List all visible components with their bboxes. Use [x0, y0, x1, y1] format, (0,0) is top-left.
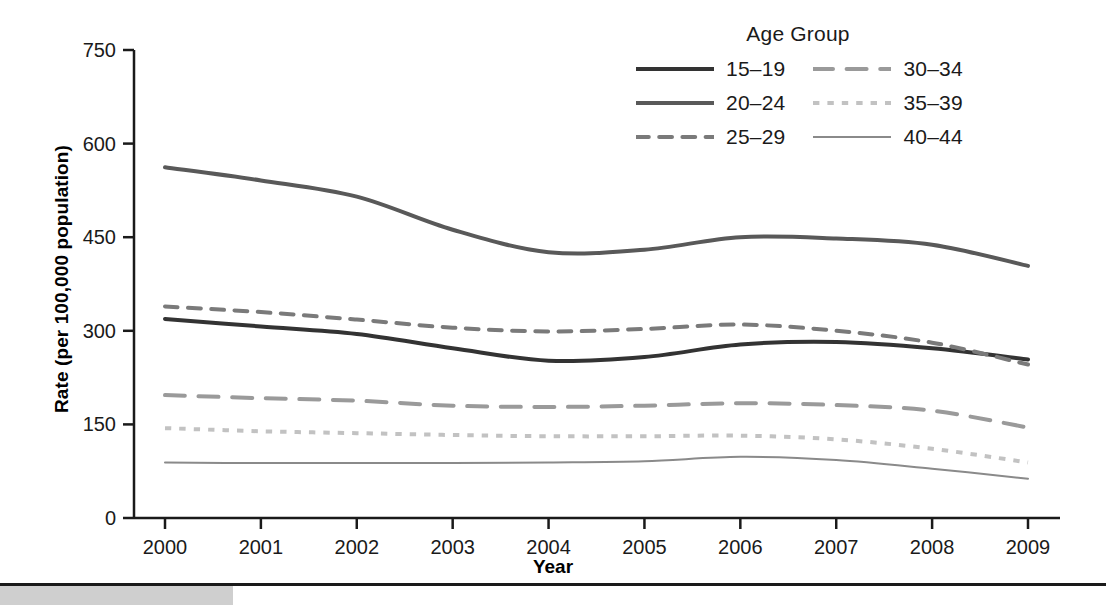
y-axis-title: Rate (per 100,000 population): [51, 69, 73, 489]
legend-label-35-39: 35–39: [903, 91, 962, 115]
x-axis-tick-label: 2004: [526, 536, 571, 558]
y-axis-tick-label: 600: [83, 133, 116, 155]
chart-legend: Age Group 15–1920–2425–29 30–3435–3940–4…: [636, 22, 996, 148]
series-line-25-29: [165, 306, 1028, 364]
legend-column-right: 30–3435–3940–44: [813, 58, 962, 148]
chart-figure: 0150300450600750200020012002200320042005…: [0, 0, 1106, 605]
x-axis-tick-label: 2007: [814, 536, 859, 558]
legend-column-left: 15–1920–2425–29: [636, 58, 785, 148]
x-axis-tick-label: 2001: [239, 536, 284, 558]
x-axis-tick-label: 2002: [335, 536, 380, 558]
legend-swatch-20-24: [636, 96, 714, 110]
series-line-15-19: [165, 319, 1028, 361]
legend-swatch-wrap-15-19: [636, 62, 714, 76]
legend-label-40-44: 40–44: [903, 125, 962, 149]
legend-item-30-34[interactable]: 30–34: [813, 58, 962, 80]
x-axis-tick-label: 2005: [622, 536, 667, 558]
series-line-35-39: [165, 428, 1028, 462]
y-axis-tick-label: 300: [83, 320, 116, 342]
legend-swatch-wrap-40-44: [813, 130, 891, 144]
legend-label-25-29: 25–29: [726, 125, 785, 149]
legend-swatch-15-19: [636, 62, 714, 76]
legend-swatch-30-34: [813, 62, 891, 76]
legend-columns: 15–1920–2425–29 30–3435–3940–44: [636, 58, 996, 148]
series-line-30-34: [165, 395, 1028, 427]
footer-gray-block: [0, 586, 233, 605]
legend-label-20-24: 20–24: [726, 91, 785, 115]
legend-item-20-24[interactable]: 20–24: [636, 92, 785, 114]
legend-item-35-39[interactable]: 35–39: [813, 92, 962, 114]
series-line-20-24: [165, 167, 1028, 266]
legend-label-15-19: 15–19: [726, 57, 785, 81]
x-axis-tick-label: 2003: [430, 536, 475, 558]
y-axis-tick-label: 0: [105, 507, 116, 529]
x-axis-tick-label: 2006: [718, 536, 763, 558]
legend-title: Age Group: [636, 22, 996, 46]
legend-swatch-wrap-25-29: [636, 130, 714, 144]
legend-swatch-35-39: [813, 96, 891, 110]
legend-swatch-wrap-30-34: [813, 62, 891, 76]
series-line-40-44: [165, 457, 1028, 479]
legend-item-40-44[interactable]: 40–44: [813, 126, 962, 148]
y-axis-tick-label: 150: [83, 413, 116, 435]
legend-swatch-25-29: [636, 130, 714, 144]
x-axis-tick-label: 2009: [1006, 536, 1051, 558]
legend-swatch-wrap-20-24: [636, 96, 714, 110]
x-axis-tick-label: 2000: [143, 536, 188, 558]
legend-swatch-wrap-35-39: [813, 96, 891, 110]
x-axis-title: Year: [0, 556, 1106, 578]
y-axis-tick-label: 450: [83, 226, 116, 248]
legend-swatch-40-44: [813, 130, 891, 144]
x-axis-tick-label: 2008: [910, 536, 955, 558]
y-axis-tick-label: 750: [83, 39, 116, 61]
legend-item-25-29[interactable]: 25–29: [636, 126, 785, 148]
legend-label-30-34: 30–34: [903, 57, 962, 81]
legend-item-15-19[interactable]: 15–19: [636, 58, 785, 80]
